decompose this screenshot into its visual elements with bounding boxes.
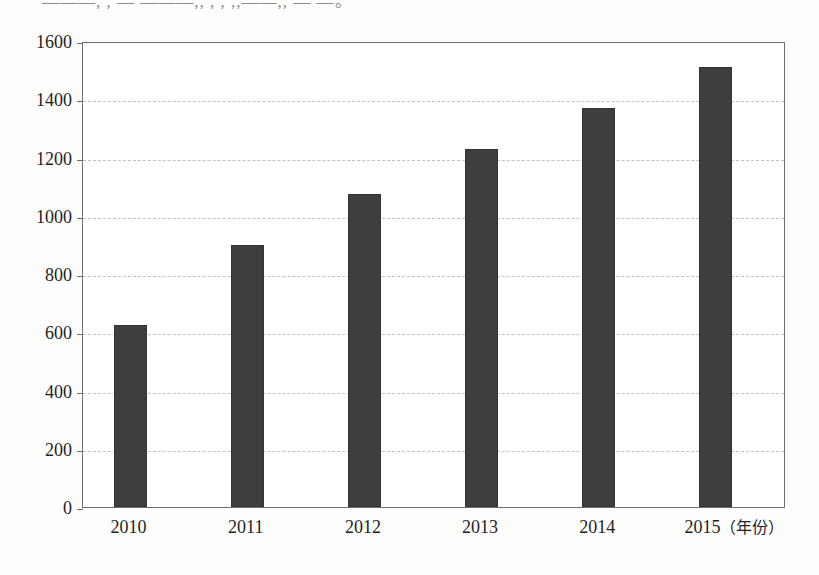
y-axis-tick-mark <box>77 509 83 510</box>
y-axis-tick-label: 1400 <box>0 91 72 109</box>
bar <box>348 194 381 507</box>
y-axis-tick-mark <box>77 334 83 335</box>
x-axis-tick-label: 2013 <box>462 518 498 536</box>
y-axis-tick-label: 1200 <box>0 150 72 168</box>
y-axis-tick-label: 1000 <box>0 208 72 226</box>
clipped-body-text-strip: ———, , — ———,, , , ,,——,, — —。 <box>0 0 819 9</box>
y-axis-tick-mark <box>77 101 83 102</box>
gridline <box>83 276 784 277</box>
y-axis-tick-mark <box>77 160 83 161</box>
x-axis-tick-label: 2010 <box>111 518 147 536</box>
gridline <box>83 451 784 452</box>
bar <box>231 245 264 507</box>
bar <box>114 325 147 507</box>
bar-chart-figure: ———, , — ———,, , , ,,——,, — —。 020040060… <box>0 0 819 575</box>
y-axis-tick-mark <box>77 276 83 277</box>
clipped-body-text: ———, , — ———,, , , ,,——,, — —。 <box>42 0 353 9</box>
plot-area <box>82 42 785 508</box>
bar <box>582 108 615 507</box>
gridline <box>83 334 784 335</box>
gridline <box>83 160 784 161</box>
x-axis-tick-label: 2011 <box>228 518 263 536</box>
y-axis-tick-label: 600 <box>0 324 72 342</box>
y-axis-tick-label: 1600 <box>0 33 72 51</box>
gridline <box>83 218 784 219</box>
x-axis-unit-label: （年份） <box>720 519 784 536</box>
x-axis-tick-label: 2015（年份） <box>684 518 784 536</box>
x-axis-tick-label: 2012 <box>345 518 381 536</box>
bar <box>465 149 498 507</box>
y-axis-tick-label: 0 <box>0 499 72 517</box>
y-axis-tick-label: 800 <box>0 266 72 284</box>
gridline <box>83 393 784 394</box>
x-axis-tick-label: 2014 <box>579 518 615 536</box>
y-axis-tick-mark <box>77 218 83 219</box>
gridline <box>83 101 784 102</box>
y-axis-tick-label: 400 <box>0 383 72 401</box>
bar <box>699 67 732 507</box>
y-axis-tick-mark <box>77 451 83 452</box>
y-axis-tick-label: 200 <box>0 441 72 459</box>
y-axis-tick-mark <box>77 393 83 394</box>
y-axis-tick-mark <box>77 43 83 44</box>
